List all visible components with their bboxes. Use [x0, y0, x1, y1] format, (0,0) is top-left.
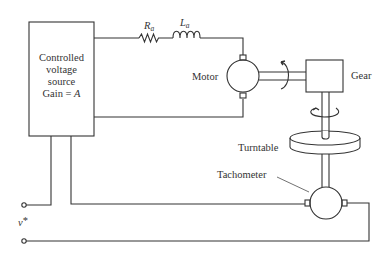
tachometer-shaft	[322, 154, 329, 187]
tachometer-icon	[305, 187, 347, 219]
source-label-gain: Gain = A	[42, 88, 81, 99]
inductor-icon	[173, 31, 200, 38]
input-terminal-icon	[22, 203, 26, 207]
controlled-voltage-source: Controlled voltage source Gain = A	[29, 22, 94, 136]
turntable-icon	[290, 131, 360, 154]
motor-label: Motor	[192, 71, 219, 82]
armature-circuit-top: Ra La	[94, 17, 243, 55]
gear-icon	[306, 60, 343, 92]
resistor-icon	[139, 34, 173, 42]
tachometer-leader-line	[277, 177, 309, 192]
input-voltage-label: v*	[18, 215, 28, 228]
resistor-label: Ra	[143, 20, 154, 33]
motor-shaft	[259, 72, 306, 80]
armature-circuit-bottom	[94, 99, 243, 117]
tachometer-label: Tachometer	[217, 169, 267, 180]
source-label-line2: voltage	[46, 64, 77, 75]
source-label-line3: source	[48, 76, 76, 87]
turntable-label: Turntable	[238, 142, 279, 153]
turntable-shaft	[322, 92, 329, 136]
rotation-arrow-icon	[281, 62, 289, 89]
gear-label: Gear	[351, 70, 372, 81]
diagram-canvas: Controlled voltage source Gain = A Ra La…	[0, 0, 392, 254]
source-label-line1: Controlled	[39, 52, 85, 63]
motor-icon	[227, 55, 259, 98]
input-terminal-icon	[22, 239, 26, 243]
inductor-label: La	[179, 17, 190, 30]
